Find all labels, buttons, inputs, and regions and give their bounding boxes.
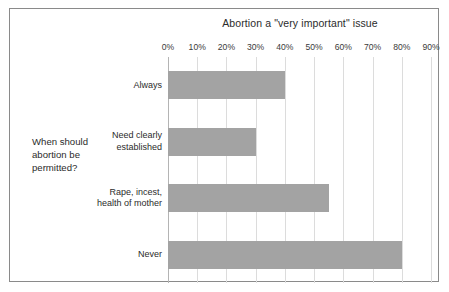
- chart-frame: Abortion a "very important" issue 0%10%2…: [9, 8, 439, 282]
- x-axis-tick-labels: 0%10%20%30%40%50%60%70%80%90%: [10, 42, 449, 56]
- gridline-80: [402, 57, 403, 283]
- category-label-1-line-2: established: [42, 142, 162, 154]
- category-label-2-line-2: health of mother: [42, 198, 162, 210]
- gridline-90: [431, 57, 432, 283]
- category-label-2: Rape, incest,health of mother: [42, 187, 162, 210]
- category-label-1: Need clearlyestablished: [42, 130, 162, 153]
- category-label-2-line-1: Rape, incest,: [42, 187, 162, 199]
- category-label-0: Always: [42, 80, 162, 92]
- category-label-1-line-1: Need clearly: [42, 130, 162, 142]
- category-axis-labels: AlwaysNeed clearlyestablishedRape, inces…: [36, 57, 162, 283]
- chart-title: Abortion a "very important" issue: [160, 17, 440, 29]
- plot-area: [168, 57, 431, 283]
- x-tick-label-90: 90%: [411, 42, 449, 52]
- bar-1: [168, 128, 256, 156]
- bar-0: [168, 71, 285, 99]
- category-label-3-line-1: Never: [42, 249, 162, 261]
- bar-3: [168, 241, 402, 269]
- bar-2: [168, 184, 329, 212]
- category-label-3: Never: [42, 249, 162, 261]
- category-label-0-line-1: Always: [42, 80, 162, 92]
